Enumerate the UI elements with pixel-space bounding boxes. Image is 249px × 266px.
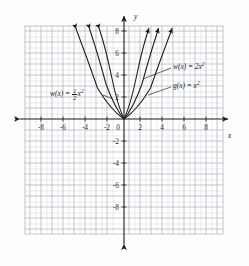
graph-page: -8 -6 -4 -2 0 2 4 6 8 8 6 4 2 -2 -4 -6 -… <box>0 0 249 266</box>
y-tick-label: -4 <box>113 159 119 168</box>
x-tick-label: -2 <box>104 123 110 132</box>
y-tick-label: -2 <box>113 137 119 146</box>
x-tick-label: 2 <box>138 123 142 132</box>
x-tick-label: -4 <box>82 123 88 132</box>
y-tick-label: 4 <box>115 71 119 80</box>
y-tick-label: 8 <box>115 27 119 36</box>
x-tick-label: -6 <box>60 123 66 132</box>
x-tick-label: 8 <box>204 123 208 132</box>
parabola-graph-figure: -8 -6 -4 -2 0 2 4 6 8 8 6 4 2 -2 -4 -6 -… <box>0 0 249 266</box>
x-tick-label: 6 <box>182 123 186 132</box>
origin-label: 0 <box>116 123 120 132</box>
x-tick-label: -8 <box>38 123 44 132</box>
x-tick-label: 4 <box>160 123 164 132</box>
y-tick-label: -8 <box>113 203 119 212</box>
y-tick-label: -6 <box>113 181 119 190</box>
y-tick-label: 6 <box>115 49 119 58</box>
